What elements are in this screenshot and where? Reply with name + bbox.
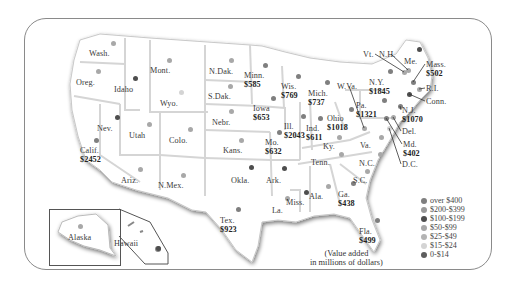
legend-label: $50-$99 xyxy=(430,223,457,232)
legend-swatch-icon xyxy=(421,216,427,222)
units-note-line2: in millions of dollars) xyxy=(310,258,383,267)
legend-swatch-icon xyxy=(421,243,427,249)
units-note-line1: (Value added xyxy=(310,249,383,258)
legend-label: $100-$199 xyxy=(430,214,465,223)
legend-item: 0-$14 xyxy=(421,250,465,259)
legend-swatch-icon xyxy=(421,198,427,204)
legend-label: over $400 xyxy=(430,196,462,205)
legend-swatch-icon xyxy=(421,252,427,258)
legend: over $400 $200-$399 $100-$199 $50-$99 $2… xyxy=(421,196,465,259)
legend-item: $100-$199 xyxy=(421,214,465,223)
legend-swatch-icon xyxy=(421,207,427,213)
legend-item: $25-$49 xyxy=(421,232,465,241)
legend-item: $200-$399 xyxy=(421,205,465,214)
units-note: (Value added in millions of dollars) xyxy=(310,249,383,267)
legend-label: $25-$49 xyxy=(430,232,457,241)
legend-swatch-icon xyxy=(421,225,427,231)
legend-label: $15-$24 xyxy=(430,241,457,250)
legend-label: 0-$14 xyxy=(430,250,449,259)
legend-swatch-icon xyxy=(421,234,427,240)
legend-item: over $400 xyxy=(421,196,465,205)
legend-label: $200-$399 xyxy=(430,205,465,214)
legend-item: $50-$99 xyxy=(421,223,465,232)
legend-item: $15-$24 xyxy=(421,241,465,250)
